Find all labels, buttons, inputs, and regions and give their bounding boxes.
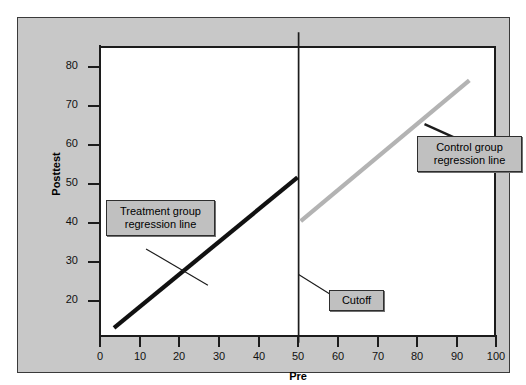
y-tick-label: 30: [50, 255, 78, 266]
x-tick-40: [258, 337, 260, 347]
y-tick-label: 40: [50, 216, 78, 227]
x-tick-label: 50: [278, 350, 318, 362]
x-tick-label: 20: [159, 350, 199, 362]
x-tick-20: [178, 337, 180, 347]
x-tick-50: [297, 337, 299, 347]
x-tick-label: 40: [239, 350, 279, 362]
x-tick-label: 90: [437, 350, 477, 362]
callout-cutoff: Cutoff: [329, 290, 384, 311]
x-tick-label: 70: [358, 350, 398, 362]
x-tick-90: [456, 337, 458, 347]
y-tick-20: 20: [18, 300, 99, 302]
figure-panel: 80 70 60 50 40 30 20 0 10: [17, 17, 510, 373]
x-axis-title: Pre: [238, 370, 358, 382]
y-tick-40: 40: [18, 222, 99, 224]
x-tick-label: 30: [199, 350, 239, 362]
x-tick-label: 0: [80, 350, 120, 362]
x-tick-100: [495, 337, 497, 347]
y-tick-label: 80: [50, 60, 78, 71]
x-tick-70: [377, 337, 379, 347]
y-tick-label: 20: [50, 294, 78, 305]
x-tick-label: 60: [318, 350, 358, 362]
y-axis-line: [99, 45, 101, 337]
x-tick-10: [139, 337, 141, 347]
y-tick-80: 80: [18, 66, 99, 68]
x-tick-60: [337, 337, 339, 347]
plot-area: [100, 46, 496, 336]
regression-discontinuity-figure: 80 70 60 50 40 30 20 0 10: [0, 0, 526, 385]
callout-control-group: Control group regression line: [417, 136, 522, 172]
x-tick-0: [99, 337, 101, 347]
y-axis-title: Posttest: [50, 134, 62, 214]
callout-treatment-group: Treatment group regression line: [106, 200, 215, 236]
x-tick-label: 80: [397, 350, 437, 362]
x-tick-30: [218, 337, 220, 347]
y-tick-label: 70: [50, 99, 78, 110]
x-tick-label: 100: [476, 350, 516, 362]
x-tick-80: [416, 337, 418, 347]
x-tick-label: 10: [120, 350, 160, 362]
y-tick-70: 70: [18, 105, 99, 107]
y-tick-30: 30: [18, 261, 99, 263]
